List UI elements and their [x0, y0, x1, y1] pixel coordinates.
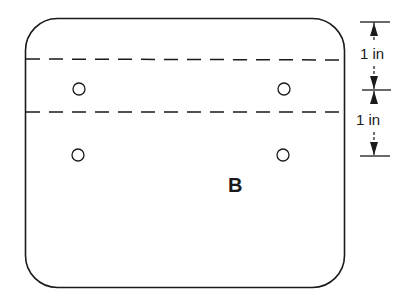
arrow-up-icon — [370, 91, 378, 104]
dimension-label-2: 1 in — [356, 111, 380, 128]
diagram-canvas: B 1 in 1 in — [0, 0, 414, 303]
arrow-down-icon — [370, 76, 378, 89]
arrow-down-icon — [370, 142, 378, 155]
panel-label: B — [228, 174, 242, 196]
hole-top-left — [73, 83, 85, 95]
arrow-up-icon — [370, 23, 378, 36]
hole-top-right — [278, 83, 290, 95]
hole-bottom-right — [277, 149, 289, 161]
dimension-label-1: 1 in — [360, 45, 384, 62]
fold-line-top — [26, 59, 344, 60]
hole-bottom-left — [72, 149, 84, 161]
